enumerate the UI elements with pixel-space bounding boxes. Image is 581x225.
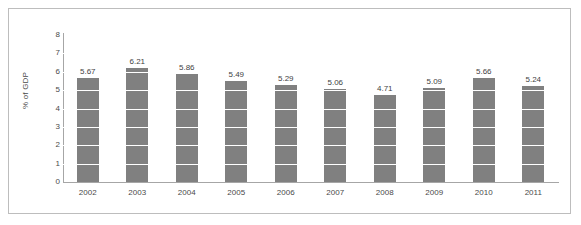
gridline xyxy=(63,90,558,91)
y-tick-label: 6 xyxy=(46,68,60,76)
bar[interactable] xyxy=(77,78,99,182)
x-tick-label: 2006 xyxy=(261,188,311,197)
bar-value-label: 5.66 xyxy=(459,67,509,76)
x-axis-line xyxy=(63,182,559,183)
x-tick-label: 2010 xyxy=(459,188,509,197)
bar-value-label: 5.49 xyxy=(212,70,262,79)
bar[interactable] xyxy=(324,89,346,182)
bar[interactable] xyxy=(423,88,445,182)
y-tick-label: 4 xyxy=(46,105,60,113)
x-axis-tick-labels: 2002200320042005200620072008200920102011 xyxy=(63,188,558,202)
y-tick-label: 2 xyxy=(46,141,60,149)
bar[interactable] xyxy=(225,81,247,182)
x-tick-label: 2005 xyxy=(212,188,262,197)
bar-value-label: 5.29 xyxy=(261,74,311,83)
bar-value-label: 5.86 xyxy=(162,63,212,72)
gridline xyxy=(63,145,558,146)
bar-value-label: 4.71 xyxy=(360,84,410,93)
gridline xyxy=(63,109,558,110)
y-axis-tick-labels: 876543210 xyxy=(42,0,60,225)
x-tick-label: 2009 xyxy=(410,188,460,197)
bar[interactable] xyxy=(473,78,495,182)
x-tick-label: 2011 xyxy=(509,188,559,197)
x-tick-label: 2004 xyxy=(162,188,212,197)
gridline xyxy=(63,164,558,165)
y-tick-label: 0 xyxy=(46,178,60,186)
bar-chart-figure: % of GDP 876543210 5.676.215.865.495.295… xyxy=(0,0,581,225)
y-tick-label: 1 xyxy=(46,160,60,168)
x-tick-label: 2003 xyxy=(113,188,163,197)
bar-value-label: 5.09 xyxy=(410,77,460,86)
bar-value-label: 5.67 xyxy=(63,67,113,76)
bar-value-label: 5.06 xyxy=(311,78,361,87)
bar[interactable] xyxy=(275,85,297,182)
x-tick-label: 2007 xyxy=(311,188,361,197)
gridline xyxy=(63,127,558,128)
bar[interactable] xyxy=(126,68,148,182)
x-tick-label: 2008 xyxy=(360,188,410,197)
bar-value-label: 5.24 xyxy=(509,75,559,84)
plot-area: 5.676.215.865.495.295.064.715.095.665.24 xyxy=(63,35,558,182)
y-tick-label: 5 xyxy=(46,86,60,94)
bar-value-label: 6.21 xyxy=(113,57,163,66)
y-tick-label: 3 xyxy=(46,123,60,131)
bar[interactable] xyxy=(522,86,544,182)
y-tick-label: 7 xyxy=(46,49,60,57)
gridline xyxy=(63,53,558,54)
y-axis-title: % of GDP xyxy=(21,61,30,121)
y-tick-label: 8 xyxy=(46,31,60,39)
x-tick-label: 2002 xyxy=(63,188,113,197)
